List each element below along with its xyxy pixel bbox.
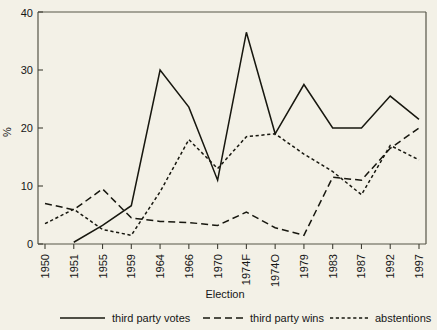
y-tick-label-20: 20 [21, 122, 33, 134]
line-chart: 0 10 20 30 40 % 195019511955195919641966… [0, 0, 437, 330]
legend-label-abstentions: abstentions [375, 312, 432, 324]
x-axis-title: Election [205, 288, 244, 300]
x-tick-label-1964: 1964 [154, 254, 166, 278]
x-tick-label-1951: 1951 [68, 254, 80, 278]
y-axis-title: % [1, 127, 13, 137]
x-tick-label-1983: 1983 [327, 254, 339, 278]
x-tick-label-1955: 1955 [97, 254, 109, 278]
x-tick-label-1992: 1992 [384, 254, 396, 278]
x-tick-label-1974O: 1974O [269, 254, 281, 287]
x-tick-label-1997: 1997 [413, 254, 425, 278]
y-tick-label-30: 30 [21, 64, 33, 76]
x-tick-label-1950: 1950 [39, 254, 51, 278]
legend-label-third-party-votes: third party votes [112, 312, 191, 324]
x-tick-label-1970: 1970 [212, 254, 224, 278]
chart-container: 0 10 20 30 40 % 195019511955195919641966… [0, 0, 437, 330]
x-tick-label-1987: 1987 [355, 254, 367, 278]
x-tick-label-1974F: 1974F [240, 254, 252, 285]
y-tick-label-10: 10 [21, 180, 33, 192]
x-tick-label-1959: 1959 [125, 254, 137, 278]
x-tick-label-1979: 1979 [298, 254, 310, 278]
y-tick-label-40: 40 [21, 7, 33, 19]
legend-label-third-party-wins: third party wins [250, 312, 324, 324]
y-tick-label-0: 0 [27, 238, 33, 250]
chart-background [0, 0, 437, 330]
x-tick-label-1966: 1966 [183, 254, 195, 278]
